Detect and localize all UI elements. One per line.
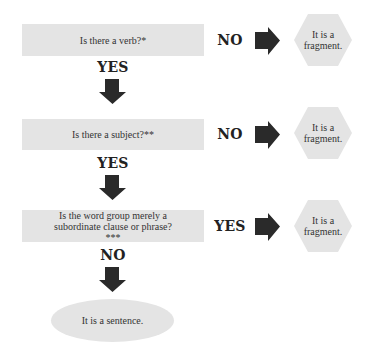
question-box-verb: Is there a verb?* [22, 24, 204, 56]
right-arrow-icon [255, 27, 280, 55]
right-arrow-icon [255, 213, 280, 241]
side-label-no: NO [214, 32, 246, 48]
result-hexagon-fragment: It is a fragment. [294, 14, 352, 66]
result-text: It is a fragment. [294, 14, 352, 66]
result-text: It is a fragment. [294, 200, 352, 252]
result-ellipse-sentence: It is a sentence. [51, 299, 174, 342]
question-box-subordinate: Is the word group merely a subordinate c… [22, 210, 204, 242]
down-label-no: NO [92, 247, 134, 263]
question-box-subject: Is there a subject?** [22, 119, 204, 150]
side-label-no: NO [214, 126, 246, 142]
down-arrow-icon [99, 267, 126, 292]
right-arrow-icon [255, 121, 280, 149]
final-result-text: It is a sentence. [82, 315, 144, 326]
down-arrow-icon [99, 175, 126, 200]
down-label-yes: YES [92, 155, 134, 171]
result-text: It is a fragment. [294, 107, 352, 159]
question-text: Is there a subject?** [72, 129, 154, 140]
question-text: Is there a verb?* [80, 35, 146, 46]
result-hexagon-fragment: It is a fragment. [294, 107, 352, 159]
down-label-yes: YES [92, 59, 134, 75]
result-hexagon-fragment: It is a fragment. [294, 200, 352, 252]
down-arrow-icon [99, 79, 126, 104]
question-text: Is the word group merely a subordinate c… [48, 210, 178, 243]
side-label-yes: YES [212, 218, 248, 234]
